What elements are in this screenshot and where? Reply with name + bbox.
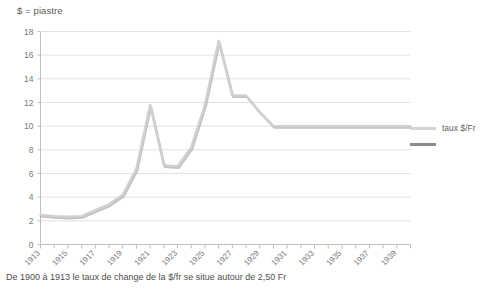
y-tick-label: 8 (29, 145, 34, 155)
y-tick-label: 16 (24, 50, 34, 60)
y-tick-label: 0 (29, 240, 34, 250)
x-tick-label: 1925 (187, 248, 206, 267)
y-tick-label: 12 (24, 98, 34, 108)
chart-legend: taux $/Fr (410, 120, 488, 152)
x-tick-label: 1937 (352, 248, 371, 267)
legend-item-taux[interactable]: taux $/Fr (410, 120, 488, 136)
legend-swatch-dark-icon (410, 143, 436, 146)
x-axis-tick-labels: 1913191519171919192119231925192719291931… (23, 248, 399, 267)
x-tick-label: 1927 (215, 248, 234, 267)
x-tick-label: 1921 (133, 248, 152, 267)
x-tick-label: 1919 (105, 248, 124, 267)
x-tick-label: 1915 (50, 248, 69, 267)
legend-item-secondary[interactable] (410, 136, 488, 152)
y-tick-label: 6 (29, 169, 34, 179)
x-tick-label: 1929 (242, 248, 261, 267)
y-tick-label: 10 (24, 121, 34, 131)
legend-swatch-light-icon (410, 127, 436, 130)
data-series-line (41, 41, 412, 218)
x-axis-ticks (41, 245, 411, 249)
x-tick-label: 1933 (297, 248, 316, 267)
x-tick-label: 1917 (78, 248, 97, 267)
chart-footnote: De 1900 à 1913 le taux de change de la $… (6, 272, 286, 282)
y-tick-label: 14 (24, 74, 34, 84)
x-tick-label: 1923 (160, 248, 179, 267)
legend-label-taux: taux $/Fr (442, 123, 476, 133)
y-tick-label: 4 (29, 192, 34, 202)
x-tick-label: 1913 (23, 248, 42, 267)
y-tick-label: 2 (29, 216, 34, 226)
x-tick-label: 1935 (324, 248, 343, 267)
x-tick-label: 1939 (379, 248, 398, 267)
y-axis-tick-labels: 024681012141618 (24, 27, 34, 250)
chart-container: $ = piastre 024681012141618 191319151917… (0, 0, 490, 289)
x-tick-label: 1931 (270, 248, 289, 267)
y-tick-label: 18 (24, 27, 34, 37)
